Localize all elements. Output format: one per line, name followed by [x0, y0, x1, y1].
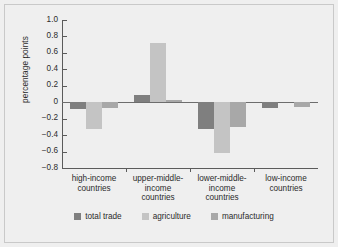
- category-label: high-incomecountries: [62, 174, 126, 193]
- y-tick-mark: [62, 86, 67, 87]
- bar-agriculture: [150, 43, 166, 102]
- bar-agriculture: [86, 102, 102, 129]
- y-tick-mark: [62, 36, 67, 37]
- y-tick-label: 1.0: [47, 15, 58, 24]
- y-tick-label: 0: [53, 97, 58, 106]
- y-tick-label: 0.6: [47, 47, 58, 56]
- bar-total-trade: [262, 102, 278, 108]
- legend-item-total-trade[interactable]: total trade: [74, 212, 121, 221]
- y-axis-line: [62, 20, 63, 168]
- y-tick-mark: [62, 20, 67, 21]
- legend-item-agriculture[interactable]: agriculture: [142, 212, 191, 221]
- bar-manufacturing: [102, 102, 118, 108]
- plot-area: 1.00.80.60.40.20−0.2−0.4−0.6−0.8 high-in…: [62, 20, 318, 168]
- bar-total-trade: [134, 95, 150, 102]
- category-label: upper-middle-incomecountries: [126, 174, 190, 203]
- category-label-line: countries: [254, 184, 318, 194]
- y-tick-label: −0.6: [42, 146, 58, 155]
- category-label-line: income: [190, 184, 254, 194]
- y-tick-mark: [62, 135, 67, 136]
- bar-agriculture: [214, 102, 230, 153]
- category-label-line: lower-middle-: [190, 174, 254, 184]
- bar-total-trade: [70, 102, 86, 109]
- y-tick-mark: [62, 69, 67, 70]
- y-tick-label: 0.4: [47, 64, 58, 73]
- legend-swatch-icon: [74, 213, 81, 220]
- category-tick: [126, 168, 127, 172]
- bar-manufacturing: [230, 102, 246, 127]
- category-label-line: upper-middle-: [126, 174, 190, 184]
- y-tick-label: −0.2: [42, 113, 58, 122]
- legend-label: agriculture: [153, 212, 191, 221]
- category-label-line: countries: [62, 184, 126, 194]
- y-tick-mark: [62, 119, 67, 120]
- chart-legend: total tradeagriculturemanufacturing: [5, 212, 338, 221]
- category-label-line: low-income: [254, 174, 318, 184]
- category-label: lower-middle-incomecountries: [190, 174, 254, 203]
- category-label-line: income: [126, 184, 190, 194]
- bar-manufacturing: [166, 100, 182, 102]
- category-label-line: high-income: [62, 174, 126, 184]
- legend-swatch-icon: [211, 213, 218, 220]
- y-tick-label: 0.2: [47, 80, 58, 89]
- legend-item-manufacturing[interactable]: manufacturing: [211, 212, 274, 221]
- y-tick-label: 0.8: [47, 31, 58, 40]
- category-label-line: countries: [126, 193, 190, 203]
- y-tick-label: −0.4: [42, 130, 58, 139]
- category-label-line: countries: [190, 193, 254, 203]
- y-axis-title: percentage points: [21, 10, 30, 130]
- y-tick-mark: [62, 53, 67, 54]
- bar-total-trade: [198, 102, 214, 129]
- legend-swatch-icon: [142, 213, 149, 220]
- chart-frame: percentage points 1.00.80.60.40.20−0.2−0…: [4, 4, 334, 243]
- legend-label: total trade: [85, 212, 121, 221]
- category-tick: [254, 168, 255, 172]
- legend-label: manufacturing: [222, 212, 274, 221]
- bar-manufacturing: [294, 102, 310, 107]
- category-tick: [190, 168, 191, 172]
- y-tick-mark: [62, 152, 67, 153]
- category-label: low-incomecountries: [254, 174, 318, 193]
- y-tick-label: −0.8: [42, 163, 58, 172]
- chart-figure: percentage points 1.00.80.60.40.20−0.2−0…: [0, 0, 338, 247]
